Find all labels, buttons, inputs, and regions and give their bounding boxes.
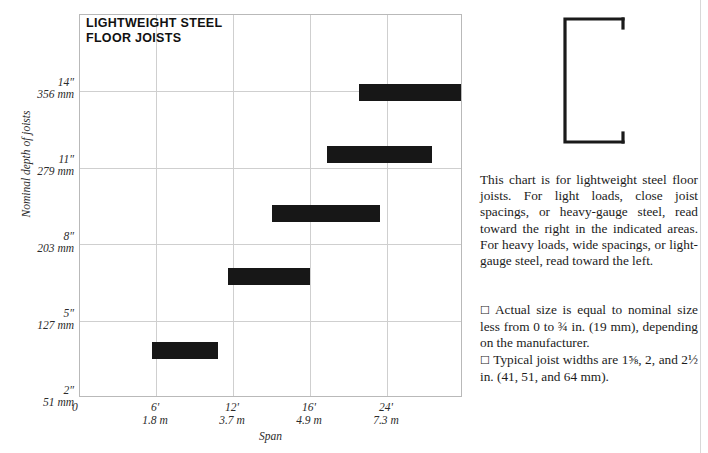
chart-block: LIGHTWEIGHT STEEL FLOOR JOISTS Nominal d…: [0, 0, 478, 453]
y-tick-8in-inch: 8″: [0, 230, 74, 242]
x-tick-6ft-meters: 1.8 m: [115, 414, 195, 427]
y-tick-14in-inch: 14″: [0, 76, 74, 88]
y-tick-11in: 11″ 279 mm: [0, 153, 74, 177]
x-tick-24ft: 24' 7.3 m: [346, 401, 426, 427]
gridline-vertical-24ft: [387, 15, 388, 396]
panel-paragraph-main: This chart is for lightweight steel floo…: [480, 172, 698, 269]
y-tick-8in-mm: 203 mm: [0, 242, 74, 254]
bar-5in: [228, 268, 310, 285]
bar-2in: [152, 342, 218, 359]
gridline-horizontal-8in: [80, 244, 461, 245]
gridline-horizontal-11in: [80, 168, 461, 169]
x-tick-6ft: 6' 1.8 m: [115, 401, 195, 427]
y-tick-11in-mm: 279 mm: [0, 165, 74, 177]
x-axis-title: Span: [79, 430, 462, 442]
panel-divider: [700, 0, 701, 453]
x-tick-12ft-feet: 12': [192, 401, 272, 414]
bullet-square-icon: ☐: [480, 304, 490, 317]
x-tick-6ft-feet: 6': [115, 401, 195, 414]
y-tick-14in: 14″ 356 mm: [0, 76, 74, 100]
panel-note-actual-size-text: Actual size is equal to nominal size les…: [480, 302, 698, 350]
gridline-vertical-6ft: [156, 15, 157, 396]
y-tick-11in-inch: 11″: [0, 153, 74, 165]
x-tick-0: 0: [72, 401, 78, 413]
y-tick-8in: 8″ 203 mm: [0, 230, 74, 254]
gridline-horizontal-5in: [80, 321, 461, 322]
x-tick-24ft-meters: 7.3 m: [346, 414, 426, 427]
x-tick-16ft: 16' 4.9 m: [269, 401, 349, 427]
panel-note-actual-size: ☐ Actual size is equal to nominal size l…: [480, 302, 698, 352]
gridline-vertical-12ft: [233, 15, 234, 396]
bullet-square-icon-2: ☐: [480, 354, 490, 367]
y-tick-5in-inch: 5″: [0, 307, 74, 319]
y-tick-5in: 5″ 127 mm: [0, 307, 74, 331]
y-tick-2in: 2″ 51 mm: [0, 384, 74, 408]
bar-11in: [327, 146, 432, 163]
chart-title: LIGHTWEIGHT STEEL FLOOR JOISTS: [86, 16, 222, 46]
bar-14in: [359, 84, 461, 101]
panel-note-joist-widths-text: Typical joist widths are 1⅝, 2, and 2½ i…: [480, 352, 698, 384]
x-tick-12ft-meters: 3.7 m: [192, 414, 272, 427]
x-tick-12ft: 12' 3.7 m: [192, 401, 272, 427]
x-tick-16ft-feet: 16': [269, 401, 349, 414]
plot-area: [79, 14, 462, 397]
joist-cross-section-icon: [560, 14, 628, 147]
y-tick-2in-inch: 2″: [0, 384, 74, 396]
bar-8in: [272, 205, 380, 222]
y-tick-5in-mm: 127 mm: [0, 319, 74, 331]
y-tick-14in-mm: 356 mm: [0, 88, 74, 100]
right-panel: This chart is for lightweight steel floo…: [478, 0, 708, 453]
x-tick-24ft-feet: 24': [346, 401, 426, 414]
y-tick-2in-mm: 51 mm: [0, 396, 74, 408]
x-tick-16ft-meters: 4.9 m: [269, 414, 349, 427]
panel-note-joist-widths: ☐ Typical joist widths are 1⅝, 2, and 2½…: [480, 352, 698, 385]
